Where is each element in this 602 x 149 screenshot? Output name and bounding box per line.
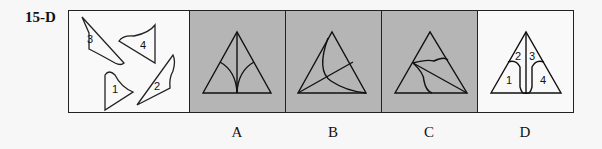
pieces-panel: 3 4 1 2: [68, 10, 190, 113]
piece-label-2: 2: [154, 80, 160, 92]
option-c-panel[interactable]: [381, 10, 478, 113]
piece-4: [119, 25, 155, 63]
option-a-drawing: [190, 11, 287, 114]
pieces-drawing: 3 4 1 2: [69, 11, 191, 114]
option-c-drawing: [382, 11, 479, 114]
question-id: 15-D: [25, 9, 56, 26]
piece-label-3: 3: [87, 33, 93, 45]
option-d-label: D: [477, 124, 573, 141]
option-b-panel[interactable]: [285, 10, 382, 113]
option-a-label: A: [189, 124, 285, 141]
piece-label-1: 1: [112, 83, 118, 95]
option-b-drawing: [286, 11, 383, 114]
option-d-drawing: 2 3 1 4: [478, 11, 575, 114]
piece-label-4: 4: [140, 39, 146, 51]
option-d-panel[interactable]: 2 3 1 4: [477, 10, 574, 113]
region-label-2: 2: [515, 50, 521, 62]
region-label-1: 1: [506, 74, 512, 86]
option-a-panel[interactable]: [189, 10, 286, 113]
region-label-4: 4: [540, 74, 546, 86]
option-b-label: B: [285, 124, 381, 141]
region-label-3: 3: [529, 50, 535, 62]
option-c-label: C: [381, 124, 477, 141]
piece-1: [105, 72, 133, 110]
